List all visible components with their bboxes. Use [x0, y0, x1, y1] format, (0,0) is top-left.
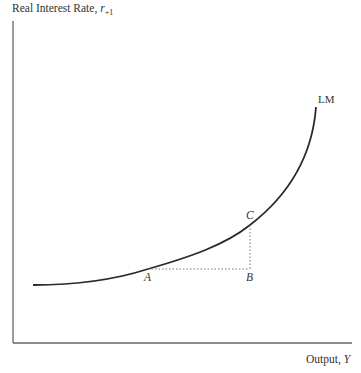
point-a-label: A: [144, 271, 151, 283]
lm-curve-label: LM: [318, 93, 335, 105]
lm-diagram: [0, 0, 361, 373]
point-b-label: B: [246, 271, 253, 283]
lm-curve: [33, 107, 316, 285]
x-axis-label: Output, Y: [306, 353, 350, 365]
point-c-label: C: [246, 209, 254, 221]
